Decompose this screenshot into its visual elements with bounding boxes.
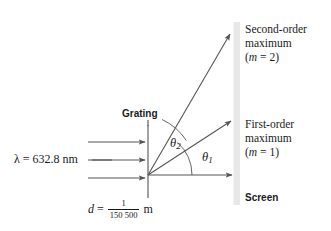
first-order-equals: = [257,146,269,158]
second-order-mode: (m = 2) [245,50,307,64]
diffraction-grating-diagram: Second-order maximum (m = 2) First-order… [0,0,331,231]
first-order-paren-close: ) [275,146,279,158]
grating-label: Grating [122,108,158,120]
first-order-mode: (m = 1) [245,145,294,159]
second-order-m-symbol: m [249,51,257,63]
second-order-line2: maximum [245,36,307,50]
first-order-m-symbol: m [249,146,257,158]
wavelength-label: λ = 632.8 nm [14,152,78,167]
second-order-line1: Second-order [245,22,307,36]
spacing-symbol: d [88,202,94,217]
second-order-paren-close: ) [275,51,279,63]
first-order-ray [148,121,231,175]
spacing-unit: m [143,202,152,217]
first-order-line2: maximum [245,131,294,145]
spacing-numerator: 1 [119,199,127,209]
screen-bar [234,22,241,205]
spacing-denominator: 150 500 [108,210,140,220]
second-order-equals: = [257,51,269,63]
second-order-ray [148,34,230,175]
screen-label: Screen [245,192,278,204]
theta2-subscript: 2 [176,141,181,151]
first-order-maximum-label: First-order maximum (m = 1) [245,117,294,159]
spacing-equals: = [97,202,104,217]
theta1-subscript: 1 [208,155,213,165]
spacing-fraction: 1 150 500 [108,199,140,219]
theta2-label: θ2 [170,136,181,152]
first-order-line1: First-order [245,117,294,131]
theta1-label: θ1 [202,150,213,166]
second-order-maximum-label: Second-order maximum (m = 2) [245,22,307,64]
grating-spacing-label: d = 1 150 500 m [88,199,153,219]
